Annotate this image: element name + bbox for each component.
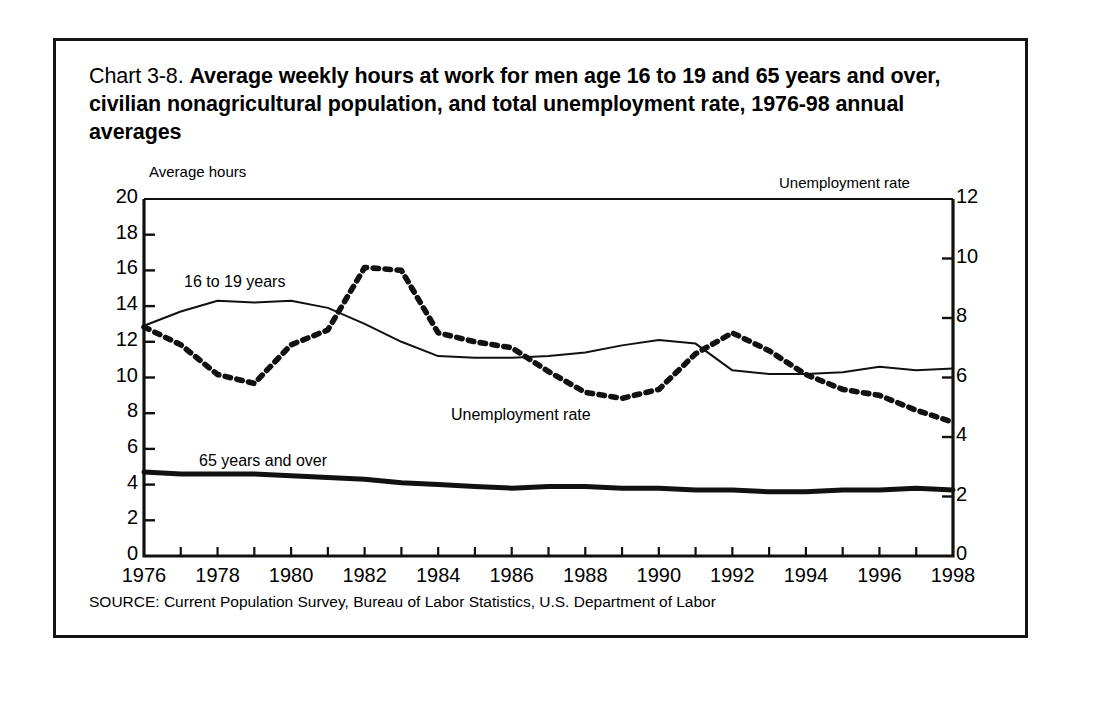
- x-tick-label: 1996: [844, 564, 914, 587]
- y-tick-label: 18: [96, 221, 138, 244]
- y-tick-label: 4: [96, 471, 138, 494]
- source-note: SOURCE: Current Population Survey, Burea…: [89, 593, 716, 611]
- y-tick-label: 12: [96, 328, 138, 351]
- y-tick-label: 2: [96, 506, 138, 529]
- x-tick-label: 1998: [918, 564, 988, 587]
- figure-frame: Chart 3-8. Average weekly hours at work …: [53, 38, 1028, 638]
- chart-title-text: Average weekly hours at work for men age…: [89, 64, 940, 144]
- series-line-16-to-19-years: [144, 301, 953, 374]
- x-tick-label: 1976: [109, 564, 179, 587]
- series-line-65-years-and-over: [144, 472, 953, 492]
- x-tick-label: 1988: [550, 564, 620, 587]
- y2-tick-label: 8: [956, 304, 998, 327]
- series-label-senior: 65 years and over: [199, 452, 327, 470]
- page-title: Chart 3-8. Average weekly hours at work …: [89, 63, 989, 147]
- y2-tick-label: 10: [956, 245, 998, 268]
- x-tick-label: 1978: [183, 564, 253, 587]
- y-tick-label: 6: [96, 435, 138, 458]
- x-tick-label: 1982: [330, 564, 400, 587]
- axis-frame: [144, 199, 953, 556]
- x-tick-label: 1990: [624, 564, 694, 587]
- y2-tick-label: 4: [956, 423, 998, 446]
- x-tick-label: 1986: [477, 564, 547, 587]
- left-axis-caption: Average hours: [149, 163, 246, 180]
- y2-tick-label: 12: [956, 185, 998, 208]
- x-tick-label: 1994: [771, 564, 841, 587]
- y-tick-label: 8: [96, 399, 138, 422]
- y2-tick-label: 0: [956, 542, 998, 565]
- x-tick-label: 1992: [697, 564, 767, 587]
- y-tick-label: 16: [96, 256, 138, 279]
- chart-number-label: Chart 3-8.: [89, 64, 184, 88]
- y2-tick-label: 6: [956, 364, 998, 387]
- y-tick-label: 14: [96, 292, 138, 315]
- y-tick-label: 10: [96, 364, 138, 387]
- x-tick-label: 1980: [256, 564, 326, 587]
- y-tick-label: 0: [96, 542, 138, 565]
- right-axis-caption: Unemployment rate: [779, 174, 910, 191]
- series-label-unemployment: Unemployment rate: [451, 406, 591, 424]
- x-tick-label: 1984: [403, 564, 473, 587]
- y2-tick-label: 2: [956, 483, 998, 506]
- series-label-teen: 16 to 19 years: [184, 273, 285, 291]
- y-tick-label: 20: [96, 185, 138, 208]
